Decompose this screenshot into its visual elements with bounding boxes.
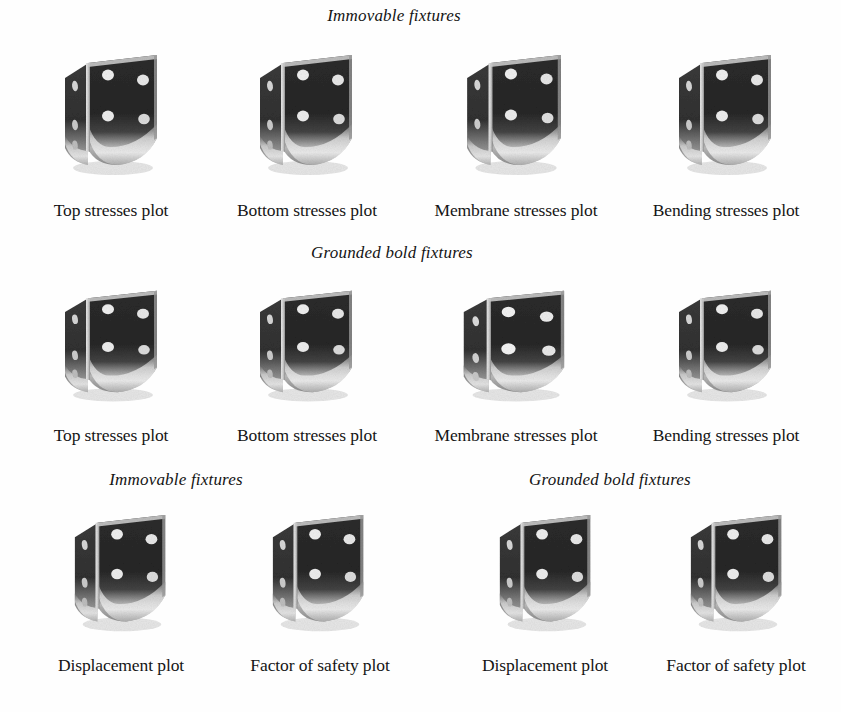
figure-caption: Bottom stresses plot bbox=[237, 425, 377, 446]
figure-caption: Bending stresses plot bbox=[653, 425, 800, 446]
bracket-photo bbox=[67, 512, 175, 636]
bracket-photo bbox=[57, 288, 167, 406]
figure-caption: Membrane stresses plot bbox=[434, 425, 597, 446]
bracket-photo bbox=[492, 512, 600, 636]
bracket-photo bbox=[459, 52, 571, 180]
bracket-photo bbox=[252, 52, 362, 180]
figure-caption: Bottom stresses plot bbox=[237, 200, 377, 221]
section-header: Immovable fixtures bbox=[327, 6, 461, 26]
figure-caption: Membrane stresses plot bbox=[434, 200, 597, 221]
figure-caption: Top stresses plot bbox=[54, 425, 169, 446]
figure-caption: Bending stresses plot bbox=[653, 200, 800, 221]
figure-caption: Factor of safety plot bbox=[250, 655, 389, 676]
section-header: Grounded bold fixtures bbox=[311, 243, 473, 263]
bracket-photo bbox=[671, 288, 781, 406]
figure-caption: Top stresses plot bbox=[54, 200, 169, 221]
bracket-photo bbox=[683, 512, 791, 636]
bracket-photo bbox=[455, 288, 575, 406]
figure-page: Immovable fixtures bbox=[0, 0, 841, 712]
figure-caption: Displacement plot bbox=[58, 655, 184, 676]
figure-caption: Factor of safety plot bbox=[666, 655, 805, 676]
figure-caption: Displacement plot bbox=[482, 655, 608, 676]
bracket-photo bbox=[57, 52, 167, 180]
section-header: Immovable fixtures bbox=[109, 470, 243, 490]
section-header: Grounded bold fixtures bbox=[529, 470, 691, 490]
bracket-photo bbox=[671, 52, 781, 180]
bracket-photo bbox=[265, 512, 373, 636]
bracket-photo bbox=[252, 288, 362, 406]
